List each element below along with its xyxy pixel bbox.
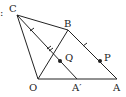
label-a-prime: A′	[71, 82, 82, 93]
point-q-dot	[58, 59, 62, 63]
segment-co	[17, 15, 38, 79]
edge-fragment: :	[0, 7, 3, 18]
geometry-diagram: : C B O A′ A Q P	[0, 0, 126, 97]
label-a: A	[112, 82, 121, 93]
label-c: C	[9, 3, 17, 14]
label-o: O	[29, 82, 37, 93]
tick-mark-ba	[83, 43, 87, 46]
segment-ob	[38, 30, 68, 79]
point-p-dot	[98, 59, 102, 63]
label-q: Q	[65, 52, 73, 63]
label-p: P	[104, 52, 111, 63]
label-b: B	[64, 18, 71, 29]
